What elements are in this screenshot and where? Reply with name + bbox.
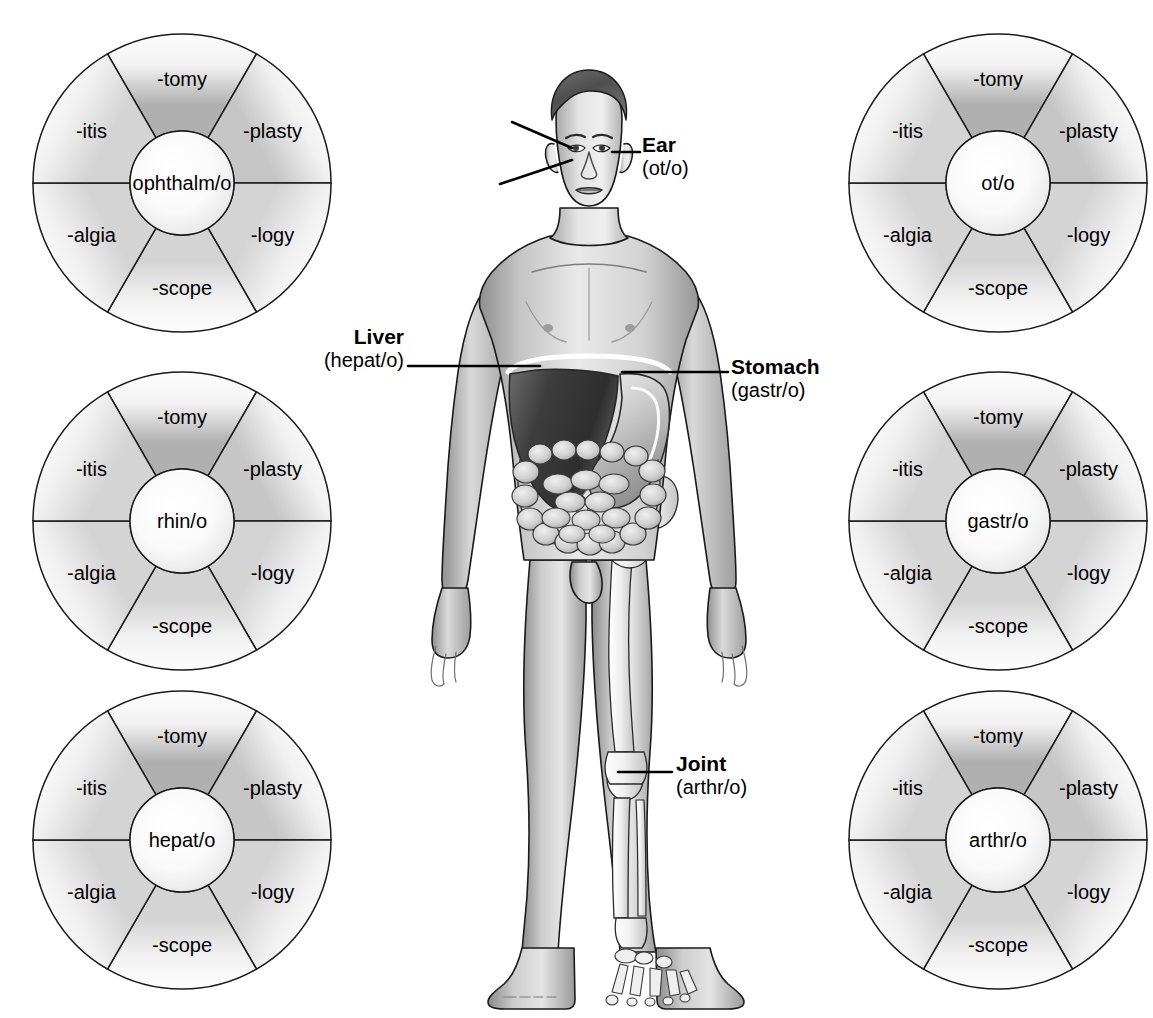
- wheel-segment-label: -tomy: [157, 68, 207, 90]
- wheel-hepato[interactable]: -tomy-plasty-logy-scope-algia-itishepat/…: [32, 690, 332, 990]
- wheel-segment-label: -tomy: [973, 68, 1023, 90]
- wheel-segment-label: -plasty: [1059, 120, 1118, 142]
- wheel-segment-label: -scope: [968, 615, 1028, 637]
- wheel-segment-label: -itis: [892, 777, 923, 799]
- callout-joint-root: (arthr/o): [676, 776, 747, 798]
- wheel-segment-label: -scope: [152, 277, 212, 299]
- wheel-root-label: ot/o: [981, 172, 1014, 194]
- wheel-segment-label: -algia: [67, 881, 117, 903]
- wheel-segment-label: -itis: [892, 458, 923, 480]
- wheel-segment-label: -scope: [968, 277, 1028, 299]
- callout-stomach: Stomach (gastr/o): [731, 355, 820, 401]
- callout-liver: Liver (hepat/o): [324, 325, 404, 371]
- wheel-segment-label: -tomy: [157, 406, 207, 428]
- wheel-segment-label: -algia: [67, 562, 117, 584]
- wheel-segment-label: -plasty: [243, 120, 302, 142]
- wheel-segment-label: -tomy: [157, 725, 207, 747]
- wheel-segment-label: -logy: [1067, 562, 1110, 584]
- wheel-segment-label: -itis: [76, 458, 107, 480]
- callout-liver-term: Liver: [324, 325, 404, 349]
- human-body-figure: [380, 40, 780, 1010]
- wheel-segment-label: -tomy: [973, 725, 1023, 747]
- wheel-segment-label: -scope: [968, 934, 1028, 956]
- callout-joint: Joint (arthr/o): [676, 752, 747, 798]
- callout-ear: Ear (ot/o): [642, 133, 689, 179]
- wheel-segment-label: -scope: [152, 615, 212, 637]
- wheel-segment-label: -logy: [1067, 224, 1110, 246]
- wheel-gastro[interactable]: -tomy-plasty-logy-scope-algia-itisgastr/…: [848, 371, 1148, 671]
- callout-stomach-root: (gastr/o): [731, 379, 820, 401]
- wheel-segment-label: -algia: [883, 562, 933, 584]
- wheel-oto[interactable]: -tomy-plasty-logy-scope-algia-itisot/o: [848, 33, 1148, 333]
- diagram-canvas: Eye (ophthalm/o) Nose (rhin/o) Ear (ot/o…: [0, 0, 1153, 1018]
- wheel-root-label: rhin/o: [157, 510, 207, 532]
- callout-liver-root: (hepat/o): [324, 349, 404, 371]
- wheel-segment-label: -itis: [76, 120, 107, 142]
- wheel-segment-label: -itis: [76, 777, 107, 799]
- callout-ear-term: Ear: [642, 133, 689, 157]
- wheel-root-label: arthr/o: [969, 829, 1027, 851]
- wheel-segment-label: -logy: [251, 224, 294, 246]
- callout-joint-term: Joint: [676, 752, 747, 776]
- wheel-segment-label: -logy: [251, 562, 294, 584]
- wheel-segment-label: -algia: [883, 224, 933, 246]
- wheel-rhino[interactable]: -tomy-plasty-logy-scope-algia-itisrhin/o: [32, 371, 332, 671]
- wheel-ophthalmo[interactable]: -tomy-plasty-logy-scope-algia-itisophtha…: [32, 33, 332, 333]
- callout-stomach-term: Stomach: [731, 355, 820, 379]
- wheel-arthro[interactable]: -tomy-plasty-logy-scope-algia-itisarthr/…: [848, 690, 1148, 990]
- wheel-segment-label: -plasty: [243, 777, 302, 799]
- wheel-segment-label: -scope: [152, 934, 212, 956]
- wheel-segment-label: -tomy: [973, 406, 1023, 428]
- wheel-segment-label: -algia: [67, 224, 117, 246]
- wheel-segment-label: -plasty: [243, 458, 302, 480]
- wheel-segment-label: -plasty: [1059, 777, 1118, 799]
- wheel-segment-label: -logy: [1067, 881, 1110, 903]
- callout-ear-root: (ot/o): [642, 157, 689, 179]
- wheel-segment-label: -plasty: [1059, 458, 1118, 480]
- wheel-segment-label: -algia: [883, 881, 933, 903]
- wheel-root-label: hepat/o: [149, 829, 216, 851]
- wheel-root-label: ophthalm/o: [133, 172, 232, 194]
- wheel-segment-label: -itis: [892, 120, 923, 142]
- wheel-root-label: gastr/o: [967, 510, 1028, 532]
- wheel-segment-label: -logy: [251, 881, 294, 903]
